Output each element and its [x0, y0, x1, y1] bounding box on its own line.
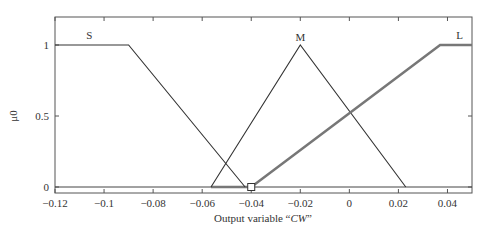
plot-area	[55, 17, 472, 193]
mf-curve-m	[211, 45, 406, 187]
membership-function-chart: −0.12−0.1−0.08−0.06−0.04−0.0200.020.0400…	[0, 0, 493, 233]
y-tick-label: 1	[44, 39, 50, 51]
plot-frame	[55, 17, 472, 193]
mf-label-s: S	[86, 29, 92, 41]
x-axis-title: Output variable “CW”	[214, 212, 312, 224]
x-tick-label: 0	[347, 197, 353, 209]
output-marker	[248, 184, 255, 191]
x-tick-label: −0.12	[42, 197, 67, 209]
chart-labels: −0.12−0.1−0.08−0.06−0.04−0.0200.020.0400…	[7, 29, 463, 224]
x-tick-label: 0.04	[438, 197, 458, 209]
mf-curve-s	[55, 45, 245, 187]
mf-label-l: L	[456, 29, 463, 41]
mf-curve-l	[251, 45, 472, 187]
x-tick-label: −0.1	[94, 197, 114, 209]
x-tick-label: −0.04	[239, 197, 265, 209]
x-tick-label: −0.06	[189, 197, 215, 209]
y-tick-label: 0.5	[35, 110, 49, 122]
x-tick-label: −0.08	[140, 197, 166, 209]
x-tick-label: −0.02	[288, 197, 313, 209]
x-tick-label: 0.02	[389, 197, 408, 209]
y-axis-title: μ0	[7, 110, 19, 122]
mf-label-m: M	[295, 31, 305, 43]
y-tick-label: 0	[44, 181, 50, 193]
